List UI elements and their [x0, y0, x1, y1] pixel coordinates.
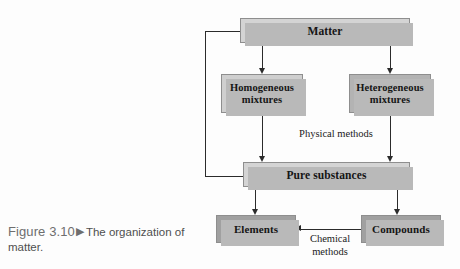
node-elements-label: Elements	[234, 223, 278, 235]
node-compounds[interactable]: Compounds	[361, 215, 441, 243]
edge-matter-to-homogeneous	[262, 43, 263, 68]
figure-number: Figure 3.10	[8, 224, 75, 239]
edge-feedback-vertical-segment	[205, 31, 206, 176]
node-compounds-label: Compounds	[372, 223, 430, 235]
node-matter-label: Matter	[307, 25, 342, 37]
node-homogeneous-mixtures-label: Homogeneousmixtures	[230, 82, 294, 106]
node-matter[interactable]: Matter	[240, 18, 410, 43]
figure-caption: Figure 3.10▶The organization of matter.	[8, 224, 186, 255]
edge-feedback-top-segment	[205, 31, 243, 32]
edge-pure-to-compounds	[397, 188, 398, 209]
node-heterogeneous-mixtures-label: Heterogeneousmixtures	[356, 82, 424, 106]
node-pure-substances[interactable]: Pure substances	[243, 162, 410, 187]
caption-triangle-icon: ▶	[76, 224, 84, 239]
edge-feedback-bottom-segment	[205, 176, 243, 177]
edge-label-chemical-methods: Chemicalmethods	[294, 233, 366, 258]
node-homogeneous-mixtures[interactable]: Homogeneousmixtures	[221, 74, 303, 113]
figure-container: Matter Homogeneousmixtures Heterogeneous…	[0, 0, 460, 269]
edge-pure-to-elements	[255, 188, 256, 209]
edge-matter-to-heterogeneous	[390, 43, 391, 68]
edge-homogeneous-to-pure	[262, 113, 263, 156]
node-pure-substances-label: Pure substances	[286, 169, 366, 181]
edge-label-physical-methods: Physical methods	[278, 128, 394, 141]
edge-compounds-to-elements	[300, 229, 362, 230]
node-elements[interactable]: Elements	[216, 215, 296, 243]
node-heterogeneous-mixtures[interactable]: Heterogeneousmixtures	[349, 74, 431, 113]
